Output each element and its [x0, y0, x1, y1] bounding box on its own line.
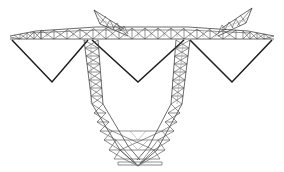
figure-root: Lattice transmission tower silhouette Li… — [0, 0, 284, 172]
lattice-tower-drawing: Lattice transmission tower silhouette Li… — [0, 0, 284, 172]
